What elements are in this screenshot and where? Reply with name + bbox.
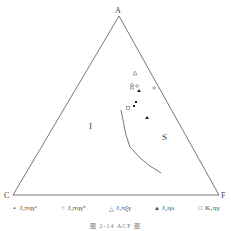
legend-label: K₁ηγ xyxy=(205,204,219,212)
legend-item: □ K₁ηγ xyxy=(197,204,219,212)
point-circle-open-icon xyxy=(136,85,139,88)
point-square-filled-icon xyxy=(133,105,135,107)
vertex-f-label: F xyxy=(221,191,226,200)
ternary-triangle xyxy=(13,16,219,195)
vertex-c-label: C xyxy=(4,191,9,200)
point-square-open-icon xyxy=(127,107,130,110)
open-square-icon: □ xyxy=(197,205,203,211)
i-s-boundary-line xyxy=(121,110,161,173)
legend-item: ▲ J₃ηο xyxy=(154,204,174,212)
point-triangle-filled-icon xyxy=(137,89,141,92)
field-i-label: I xyxy=(89,121,92,131)
legend-item: ▪ J₃πηγᵃ xyxy=(11,204,36,212)
point-triangle-open-icon xyxy=(130,86,134,89)
legend-item: △ J₃πξγ xyxy=(108,204,131,212)
field-s-label: S xyxy=(162,132,167,142)
legend: ▪ J₃πηγᵃ ○ J₃πηγᵇ △ J₃πξγ ▲ J₃ηο □ K₁ηγ xyxy=(0,202,231,214)
open-triangle-icon: △ xyxy=(108,205,114,212)
small-filled-square-icon: ▪ xyxy=(11,205,17,211)
legend-label: J₃ηο xyxy=(162,204,174,212)
legend-label: J₃πξγ xyxy=(116,204,131,212)
figure-caption: 图 2-14 ACF 图 xyxy=(0,221,231,230)
legend-item: ○ J₃πηγᵇ xyxy=(60,204,86,212)
vertex-a-label: A xyxy=(115,6,121,15)
open-circle-icon: ○ xyxy=(60,205,66,211)
filled-triangle-icon: ▲ xyxy=(154,205,160,211)
point-square-filled-icon xyxy=(135,101,137,103)
point-triangle-open-icon xyxy=(133,71,137,75)
legend-label: J₃πηγᵇ xyxy=(68,204,86,212)
point-circle-open-icon xyxy=(153,87,156,90)
legend-label: J₃πηγᵃ xyxy=(19,204,36,212)
data-points xyxy=(127,71,156,119)
acf-ternary-diagram: A C F I S xyxy=(0,0,231,231)
point-triangle-filled-icon xyxy=(145,116,149,119)
